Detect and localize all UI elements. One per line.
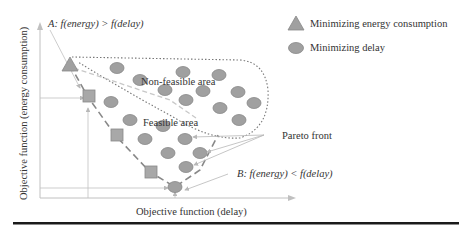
pareto-pointer-lines: [185, 135, 264, 190]
non-feasible-label: Non-feasible area: [141, 76, 216, 87]
point-a-label: A: f(energy) > f(delay): [47, 18, 144, 30]
x-axis-arrow-icon: [288, 195, 296, 201]
point-b-label: B: f(energy) < f(delay): [237, 168, 333, 180]
legend-label-energy: Minimizing energy consumption: [310, 18, 448, 29]
pareto-front-label: Pareto front: [282, 130, 332, 141]
legend-circle-icon: [289, 43, 304, 54]
legend-label-delay: Minimizing delay: [310, 42, 386, 53]
pareto-diagram: Minimizing energy consumption Minimizing…: [0, 0, 472, 232]
bottom-rule: [13, 222, 459, 225]
y-axis-arrow-icon: [37, 22, 43, 30]
x-axis-label: Objective function (delay): [136, 206, 247, 218]
y-axis-label: Objective function (energy consumption): [18, 26, 30, 200]
legend: Minimizing energy consumption Minimizing…: [288, 16, 448, 54]
legend-triangle-icon: [288, 16, 304, 30]
triangle-icon: [62, 57, 78, 71]
feasible-label: Feasible area: [143, 117, 198, 128]
